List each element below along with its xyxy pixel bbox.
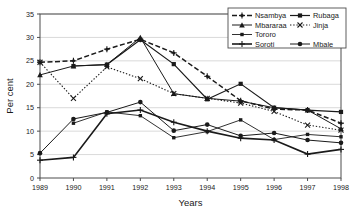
data-point-marker	[239, 118, 242, 121]
data-point-marker	[306, 133, 309, 136]
y-tick-label-5: 5	[30, 150, 34, 159]
y-tick-label-20: 20	[26, 80, 34, 89]
x-axis-title: Years	[179, 197, 203, 208]
data-point-marker	[71, 96, 76, 101]
legend-label: Rubaga	[313, 11, 340, 20]
y-tick-label-0: 0	[30, 174, 34, 183]
x-tick-label-1989: 1989	[32, 183, 48, 192]
data-point-marker	[272, 131, 277, 136]
x-tick-label-1993: 1993	[166, 183, 182, 192]
x-tick-label-1998: 1998	[333, 183, 349, 192]
data-point-marker	[205, 122, 210, 127]
data-point-marker	[305, 123, 310, 128]
data-point-marker	[138, 76, 143, 81]
data-point-marker	[104, 46, 110, 52]
data-point-marker	[138, 100, 143, 105]
data-point-marker	[172, 136, 175, 139]
legend-label: Jinja	[313, 21, 329, 30]
y-tick-label-10: 10	[26, 127, 34, 136]
line-chart: 05101520253035Per cent198919901991199219…	[0, 0, 352, 220]
x-tick-label-1995: 1995	[233, 183, 249, 192]
series-line	[40, 110, 341, 160]
series-line	[40, 37, 341, 128]
legend-label: Tororo	[255, 30, 276, 39]
y-tick-label-15: 15	[26, 103, 34, 112]
data-point-marker	[339, 110, 343, 114]
data-point-marker	[37, 157, 43, 163]
data-point-marker	[72, 121, 75, 124]
data-point-marker	[298, 42, 303, 47]
y-tick-label-35: 35	[26, 10, 34, 19]
legend-label: Soroti	[255, 40, 275, 49]
legend-label: Mbararaa	[255, 21, 288, 30]
data-point-marker	[338, 146, 344, 152]
data-point-marker	[305, 151, 311, 157]
x-tick-label-1992: 1992	[132, 183, 148, 192]
data-point-marker	[172, 62, 176, 66]
data-point-marker	[105, 110, 110, 115]
x-tick-label-1997: 1997	[300, 183, 316, 192]
y-tick-label-25: 25	[26, 56, 34, 65]
x-tick-label-1990: 1990	[65, 183, 81, 192]
chart-container: 05101520253035Per cent198919901991199219…	[0, 0, 352, 220]
data-point-marker	[240, 33, 243, 36]
x-tick-label-1996: 1996	[266, 183, 282, 192]
data-point-marker	[238, 134, 243, 139]
data-point-marker	[298, 13, 302, 17]
data-point-marker	[171, 128, 176, 133]
y-tick-label-30: 30	[26, 33, 34, 42]
legend-label: Mbale	[313, 40, 333, 49]
data-point-marker	[239, 82, 243, 86]
legend-label: Nsambya	[255, 11, 287, 20]
series-mbale	[38, 100, 344, 156]
data-point-marker	[71, 117, 76, 122]
data-point-marker	[339, 135, 342, 138]
data-point-marker	[305, 138, 310, 143]
data-point-marker	[171, 119, 177, 125]
x-tick-label-1994: 1994	[199, 183, 215, 192]
data-point-marker	[139, 114, 142, 117]
data-point-marker	[38, 151, 43, 156]
data-point-marker	[339, 141, 344, 146]
data-point-marker	[204, 128, 210, 134]
y-axis-title: Per cent	[4, 78, 15, 114]
x-tick-label-1991: 1991	[99, 183, 115, 192]
data-point-marker	[338, 120, 344, 126]
data-point-marker	[70, 58, 76, 64]
